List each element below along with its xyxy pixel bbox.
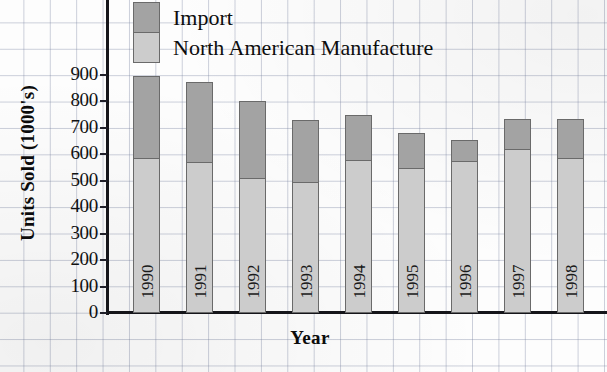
y-axis-tick-label: 200 bbox=[52, 249, 98, 268]
bar-segment-import bbox=[504, 119, 531, 149]
y-axis-tick bbox=[100, 153, 107, 155]
bar-year-label: 1990 bbox=[138, 256, 155, 308]
bar-segment-north-american: 1993 bbox=[292, 182, 319, 313]
bar-year-label: 1996 bbox=[456, 256, 473, 308]
y-axis-tick-label: 700 bbox=[52, 117, 98, 136]
bar-segment-import bbox=[186, 82, 213, 163]
bar-year-label: 1995 bbox=[403, 256, 420, 308]
stacked-bar-chart: 9008007006005004003002001000 Units Sold … bbox=[0, 0, 607, 372]
bar-segment-north-american: 1998 bbox=[557, 158, 584, 313]
bar-group: 1993 bbox=[292, 120, 319, 313]
bar-segment-import bbox=[292, 120, 319, 182]
y-axis-title: Units Sold (1000's) bbox=[17, 63, 39, 263]
bar-year-label: 1994 bbox=[350, 256, 367, 308]
y-axis-tick-label: 500 bbox=[52, 170, 98, 189]
legend-label-import: Import bbox=[173, 7, 233, 29]
bar-segment-north-american: 1990 bbox=[133, 158, 160, 313]
bar-group: 1992 bbox=[239, 101, 266, 313]
bar-group: 1991 bbox=[186, 82, 213, 313]
bar-segment-north-american: 1994 bbox=[345, 160, 372, 313]
y-axis-line bbox=[106, 0, 109, 315]
bar-segment-north-american: 1995 bbox=[398, 168, 425, 313]
bar-segment-import bbox=[398, 133, 425, 167]
bar-segment-import bbox=[345, 115, 372, 160]
bar-group: 1997 bbox=[504, 119, 531, 313]
y-axis-tick bbox=[100, 312, 107, 314]
y-axis-tick-label: 100 bbox=[52, 276, 98, 295]
bar-segment-north-american: 1992 bbox=[239, 178, 266, 313]
bar-year-label: 1992 bbox=[244, 256, 261, 308]
bar-segment-import bbox=[557, 119, 584, 159]
y-axis-tick-label: 800 bbox=[52, 90, 98, 109]
bar-year-label: 1993 bbox=[297, 256, 314, 308]
bar-group: 1995 bbox=[398, 133, 425, 313]
y-axis-tick bbox=[100, 100, 107, 102]
bar-segment-import bbox=[133, 76, 160, 158]
bar-segment-import bbox=[239, 101, 266, 178]
y-axis-tick bbox=[100, 233, 107, 235]
y-axis-tick-label: 0 bbox=[52, 302, 98, 321]
legend-swatch-import bbox=[133, 2, 160, 33]
bar-group: 1994 bbox=[345, 115, 372, 313]
y-axis-tick bbox=[100, 206, 107, 208]
bar-year-label: 1998 bbox=[562, 256, 579, 308]
legend-label-north-american: North American Manufacture bbox=[173, 37, 433, 59]
y-axis-tick bbox=[100, 74, 107, 76]
bar-segment-north-american: 1997 bbox=[504, 149, 531, 313]
bar-year-label: 1991 bbox=[191, 256, 208, 308]
bar-year-label: 1997 bbox=[509, 256, 526, 308]
bar-group: 1996 bbox=[451, 140, 478, 313]
y-axis-tick bbox=[100, 286, 107, 288]
y-axis-tick-label: 600 bbox=[52, 143, 98, 162]
chart-page: 9008007006005004003002001000 Units Sold … bbox=[0, 0, 607, 372]
legend-swatch-north-american bbox=[133, 32, 160, 63]
y-axis-tick-label: 900 bbox=[52, 64, 98, 83]
y-axis-tick-label: 300 bbox=[52, 223, 98, 242]
y-axis-tick bbox=[100, 180, 107, 182]
bar-segment-north-american: 1996 bbox=[451, 161, 478, 313]
bar-segment-import bbox=[451, 140, 478, 161]
y-axis-tick bbox=[100, 127, 107, 129]
y-axis-tick bbox=[100, 259, 107, 261]
x-axis-title: Year bbox=[250, 327, 370, 349]
bar-segment-north-american: 1991 bbox=[186, 162, 213, 313]
bar-group: 1990 bbox=[133, 76, 160, 313]
bar-group: 1998 bbox=[557, 119, 584, 313]
y-axis-tick-label: 400 bbox=[52, 196, 98, 215]
